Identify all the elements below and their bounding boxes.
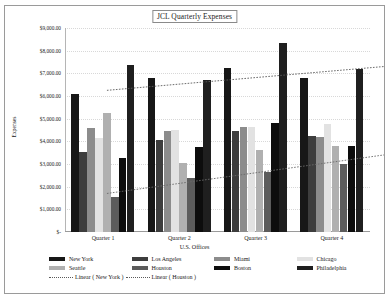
bar-houston[interactable] (340, 164, 348, 232)
bar-chicago[interactable] (248, 127, 256, 232)
legend-item-houston[interactable]: Houston (132, 265, 215, 271)
y-tick-label: $9,000.00 (40, 25, 61, 31)
bar-philadelphia[interactable] (356, 69, 364, 232)
y-tick-label: $8,000.00 (40, 48, 61, 54)
legend-label: Houston (152, 265, 172, 271)
legend-item-philadelphia[interactable]: Philadelphia (297, 265, 380, 271)
legend-swatch-icon (214, 266, 230, 270)
legend-swatch-icon (297, 266, 313, 270)
legend-item-linear-houston-[interactable]: Linear ( Houston ) (126, 274, 197, 280)
bar-los-angeles[interactable] (79, 152, 87, 232)
y-axis-line (65, 28, 66, 232)
bar-boston[interactable] (195, 147, 203, 232)
legend-swatch-icon (49, 257, 65, 261)
chart-title: JCL Quarterly Expenses (152, 10, 237, 23)
legend-row: New YorkLos AngelesMiamiChicago (49, 256, 379, 262)
y-axis-title: Expenses (11, 97, 17, 157)
legend-label: Philadelphia (317, 265, 347, 271)
legend-label: Los Angeles (152, 256, 182, 262)
bar-philadelphia[interactable] (279, 43, 287, 232)
legend-item-miami[interactable]: Miami (214, 256, 297, 262)
x-tick-label: Quarter 3 (244, 235, 267, 241)
legend-item-chicago[interactable]: Chicago (297, 256, 380, 262)
bar-houston[interactable] (187, 178, 195, 232)
legend-label: Chicago (317, 256, 337, 262)
legend-swatch-icon (297, 257, 313, 261)
bar-los-angeles[interactable] (308, 136, 316, 232)
y-tick-label: $- (57, 229, 61, 235)
bar-miami[interactable] (164, 131, 172, 232)
legend-item-new-york[interactable]: New York (49, 256, 132, 262)
chart-legend: New YorkLos AngelesMiamiChicago SeattleH… (49, 256, 379, 280)
y-tick-label: $6,000.00 (40, 93, 61, 99)
bar-seattle[interactable] (256, 150, 264, 232)
bar-miami[interactable] (87, 128, 95, 232)
bar-boston[interactable] (119, 158, 127, 232)
legend-label: Boston (234, 265, 251, 271)
legend-trendline-row: Linear ( New York )Linear ( Houston ) (49, 274, 379, 280)
bar-group: Quarter 1 (71, 28, 134, 232)
legend-label: Linear ( New York ) (75, 274, 124, 280)
bar-seattle[interactable] (332, 146, 340, 232)
bar-los-angeles[interactable] (232, 131, 240, 232)
bar-los-angeles[interactable] (156, 140, 164, 232)
legend-label: Seattle (69, 265, 85, 271)
x-tick-label: Quarter 4 (320, 235, 343, 241)
bar-miami[interactable] (316, 137, 324, 232)
bar-new-york[interactable] (71, 94, 79, 232)
chart-frame: JCL Quarterly Expenses Expenses $-$1,000… (4, 5, 385, 294)
x-tick-label: Quarter 2 (168, 235, 191, 241)
legend-label: Miami (234, 256, 250, 262)
x-axis-title: U.S. Offices (5, 244, 384, 250)
legend-item-boston[interactable]: Boston (214, 265, 297, 271)
legend-item-los-angeles[interactable]: Los Angeles (132, 256, 215, 262)
bar-chicago[interactable] (95, 138, 103, 232)
bar-group: Quarter 2 (148, 28, 211, 232)
bar-miami[interactable] (240, 127, 248, 232)
legend-swatch-icon (132, 257, 148, 261)
plot-area: $-$1,000.00$2,000.00$3,000.00$4,000.00$5… (65, 28, 370, 232)
y-tick-label: $1,000.00 (40, 206, 61, 212)
legend-item-seattle[interactable]: Seattle (49, 265, 132, 271)
legend-swatch-icon (132, 266, 148, 270)
bar-houston[interactable] (264, 172, 272, 232)
bar-seattle[interactable] (103, 113, 111, 232)
bar-group: Quarter 4 (300, 28, 363, 232)
bar-boston[interactable] (271, 123, 279, 232)
bar-philadelphia[interactable] (203, 80, 211, 232)
legend-label: New York (69, 256, 93, 262)
bar-boston[interactable] (348, 146, 356, 232)
bar-new-york[interactable] (148, 78, 156, 232)
bar-new-york[interactable] (300, 78, 308, 232)
y-tick-label: $5,000.00 (40, 116, 61, 122)
legend-swatch-icon (49, 266, 65, 270)
legend-dashed-line-icon (126, 277, 150, 278)
legend-label: Linear ( Houston ) (152, 274, 197, 280)
legend-item-linear-new-york-[interactable]: Linear ( New York ) (49, 274, 124, 280)
bar-houston[interactable] (111, 197, 119, 232)
y-tick-label: $2,000.00 (40, 184, 61, 190)
bar-seattle[interactable] (179, 163, 187, 232)
y-tick-label: $3,000.00 (40, 161, 61, 167)
bar-philadelphia[interactable] (127, 65, 135, 232)
bar-chicago[interactable] (171, 130, 179, 232)
legend-row: SeattleHoustonBostonPhiladelphia (49, 265, 379, 271)
y-tick-label: $4,000.00 (40, 138, 61, 144)
bar-new-york[interactable] (224, 68, 232, 232)
bar-chicago[interactable] (324, 124, 332, 232)
y-tick-label: $7,000.00 (40, 70, 61, 76)
bar-group: Quarter 3 (224, 28, 287, 232)
legend-swatch-icon (214, 257, 230, 261)
legend-dashed-line-icon (49, 277, 73, 278)
x-tick-label: Quarter 1 (92, 235, 115, 241)
